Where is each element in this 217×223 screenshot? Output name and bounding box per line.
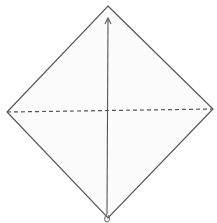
origami-diagram bbox=[0, 0, 217, 223]
